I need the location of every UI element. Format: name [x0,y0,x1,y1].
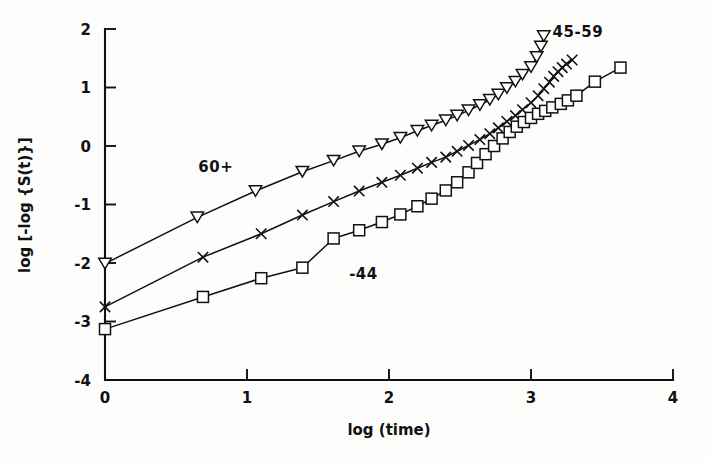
marker-4559-2 [256,229,266,239]
marker-4559-15 [493,123,503,133]
y-tick-label-4: 0 [81,138,91,156]
marker-44-2 [256,273,267,284]
series-annotations: 60+45-59-44 [198,23,603,284]
data-series [99,31,626,335]
y-tick-label-1: -3 [74,313,91,331]
marker-44-1 [197,291,208,302]
marker-4559-26 [561,59,571,69]
annotation-60: 60+ [198,158,233,176]
marker-4559-22 [544,77,554,87]
marker-44-3 [297,262,308,273]
marker-44-26 [571,90,582,101]
x-tick-label-3: 3 [526,389,536,407]
marker-60-2 [249,186,261,197]
marker-44-8 [412,201,423,212]
marker-4559-20 [533,90,543,100]
marker-44-28 [615,62,626,73]
marker-60-1 [191,212,204,223]
annotation-44: -44 [349,265,378,283]
marker-60-4 [327,155,340,166]
marker-4559-8 [412,163,422,173]
axes [105,29,673,380]
y-tick-label-0: -4 [74,372,91,390]
series-line-1 [105,60,572,307]
axis-spine [105,29,673,380]
marker-60-11 [451,110,464,121]
marker-60-9 [425,120,438,130]
y-tick-label-2: -2 [74,255,91,273]
marker-4559-11 [452,146,462,156]
marker-60-7 [394,133,407,144]
marker-60-8 [411,126,424,136]
x-tick-label-0: 0 [100,389,110,407]
x-tick-label-2: 2 [384,389,394,407]
marker-44-5 [354,225,365,236]
x-tick-label-1: 1 [242,389,252,407]
marker-4559-1 [198,252,208,262]
marker-4559-27 [567,55,577,65]
x-axis-title: log (time) [347,421,430,439]
x-tick-label-4: 4 [668,389,678,407]
axis-ticks [105,29,673,380]
marker-4559-12 [463,140,473,150]
marker-60-3 [296,166,309,177]
marker-44-0 [100,324,111,335]
marker-60-6 [376,139,389,150]
marker-4559-3 [297,210,307,220]
marker-4559-6 [377,177,387,187]
marker-4559-7 [395,170,405,180]
marker-44-27 [589,76,600,87]
marker-4559-9 [426,157,436,167]
marker-4559-5 [354,186,364,196]
y-axis-title: log [-log {S(t)}] [16,137,34,273]
annotation-4559: 45-59 [553,23,603,41]
marker-44-7 [395,209,406,220]
marker-60-5 [353,146,366,157]
plot-canvas: -4-3-2-101201234 60+45-59-44 log (time) … [0,0,709,461]
marker-4559-13 [475,134,485,144]
marker-4559-10 [441,152,451,162]
marker-60-20 [530,52,543,63]
series-44 [100,62,626,334]
marker-60-22 [538,31,551,42]
marker-4559-16 [502,116,512,126]
marker-44-10 [440,185,451,196]
marker-4559-14 [485,129,495,139]
marker-44-4 [328,233,339,244]
chart-figure: -4-3-2-101201234 60+45-59-44 log (time) … [0,0,709,461]
axis-tick-labels: -4-3-2-101201234 [74,21,678,408]
marker-4559-4 [328,196,338,206]
marker-44-11 [452,177,463,188]
y-tick-label-6: 2 [81,21,91,39]
series-4559 [100,55,578,312]
y-tick-label-3: -1 [74,196,91,214]
marker-44-9 [426,193,437,204]
marker-44-6 [376,217,387,228]
series-line-0 [105,36,544,264]
marker-60-21 [535,41,548,52]
marker-60-10 [440,115,453,126]
y-tick-label-5: 1 [81,79,91,97]
